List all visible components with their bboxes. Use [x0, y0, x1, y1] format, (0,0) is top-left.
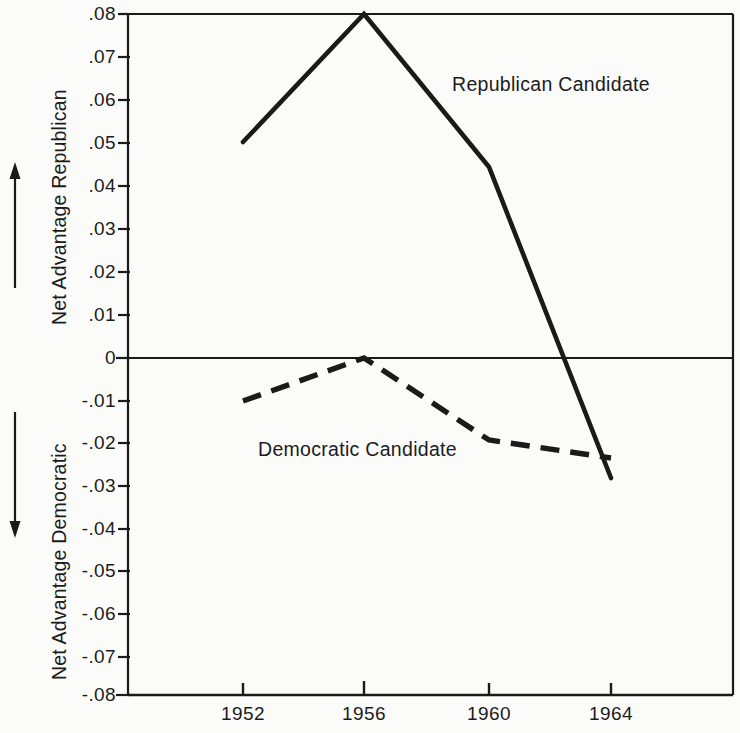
y-tick-label: .07 [24, 46, 116, 68]
y-tick-label: -.08 [24, 684, 116, 706]
y-axis-title-democratic: Net Advantage Democratic [48, 443, 71, 680]
chart-figure: .08 .07 .06 .05 .04 .03 .02 .01 0 -.01 -… [0, 0, 740, 733]
x-axis-ticks [243, 681, 611, 695]
x-tick-label: 1960 [449, 703, 529, 725]
series-annotation-republican: Republican Candidate [452, 73, 650, 96]
series-annotation-democratic: Democratic Candidate [258, 438, 457, 461]
up-arrow-icon [10, 162, 21, 288]
down-arrow-icon [10, 412, 21, 538]
x-tick-label: 1964 [571, 703, 651, 725]
y-tick-label: -.01 [24, 390, 116, 412]
y-tick-label: .08 [24, 3, 116, 25]
plot-frame [128, 14, 733, 695]
y-axis-title-republican: Net Advantage Republican [48, 89, 71, 325]
y-tick-label: 0 [24, 347, 116, 369]
x-tick-label: 1952 [203, 703, 283, 725]
x-tick-label: 1956 [324, 703, 404, 725]
